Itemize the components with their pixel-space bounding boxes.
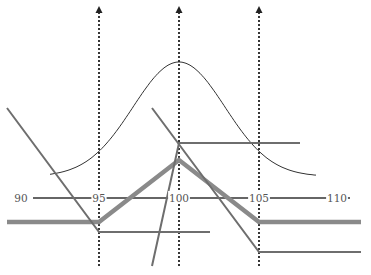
payoff-diagram: 9095100105110 xyxy=(0,0,371,275)
strike-markers xyxy=(96,6,263,266)
tick-label-90: 90 xyxy=(14,192,27,204)
arrow-up-icon xyxy=(256,6,263,13)
long-call-105-payoff xyxy=(152,108,361,252)
arrow-up-icon xyxy=(176,6,183,13)
tick-label-110: 110 xyxy=(327,192,347,204)
short-straddle-100-leg xyxy=(152,143,300,266)
distribution-curve xyxy=(50,62,316,175)
tick-label-105: 105 xyxy=(249,192,269,204)
arrow-up-icon xyxy=(96,6,103,13)
payoff-lines xyxy=(7,108,361,266)
tick-label-95: 95 xyxy=(92,192,105,204)
tick-label-100: 100 xyxy=(169,192,189,204)
